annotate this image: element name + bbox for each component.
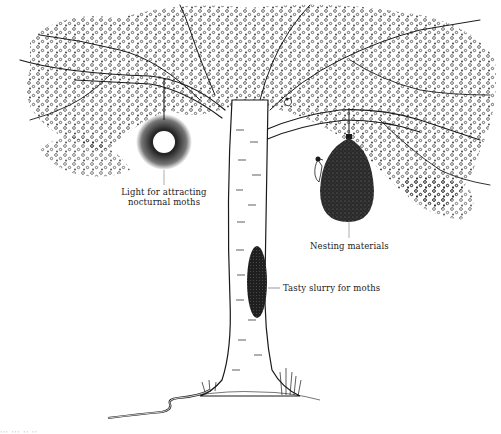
caption-fragment: ··· ··· ·· ··: [0, 428, 38, 434]
slurry-patch: [247, 246, 267, 318]
light-label-line1: Light for attracting: [118, 187, 210, 197]
slurry-label: Tasty slurry for moths: [283, 283, 380, 293]
tree-illustration: [0, 0, 501, 434]
light-label: Light for attracting nocturnal moths: [118, 187, 210, 207]
illustration-canvas: Light for attracting nocturnal moths Nes…: [0, 0, 501, 434]
light-label-line2: nocturnal moths: [118, 197, 210, 207]
garden-hose: [108, 390, 210, 418]
nesting-label: Nesting materials: [310, 241, 389, 251]
trunk: [200, 100, 300, 396]
